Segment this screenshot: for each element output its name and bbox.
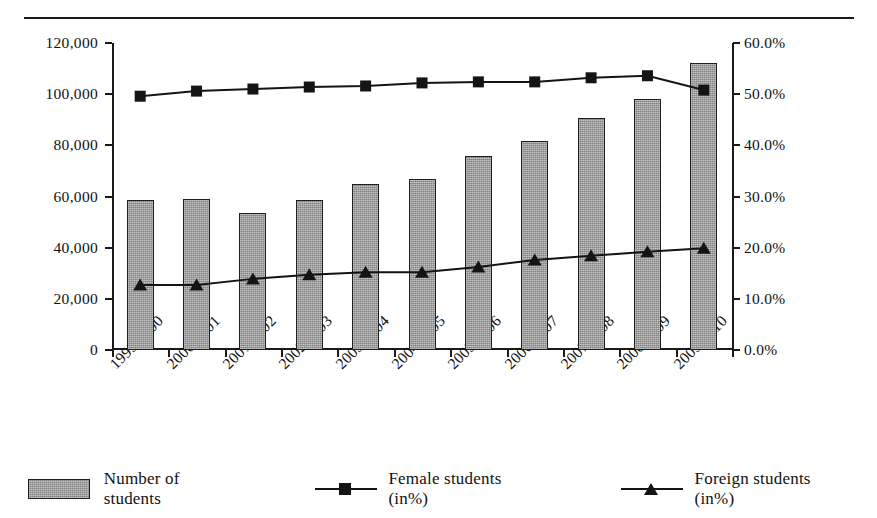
bar xyxy=(465,156,492,350)
legend-item-number-of-students: Number of students xyxy=(28,469,241,509)
legend-label-female-students: Female students (in%) xyxy=(388,469,544,509)
left-axis-tick xyxy=(105,144,112,146)
left-axis-tick xyxy=(105,298,112,300)
right-axis-tick xyxy=(733,93,740,95)
legend-item-foreign-students: Foreign students (in%) xyxy=(621,469,854,509)
right-axis-tick xyxy=(733,144,740,146)
legend-item-female-students: Female students (in%) xyxy=(315,469,545,509)
line-square-marker-icon xyxy=(315,482,377,496)
right-axis-tick-label: 10.0% xyxy=(744,290,844,308)
right-axis-line xyxy=(732,43,734,352)
left-axis-tick-label: 100,000 xyxy=(0,85,98,103)
left-axis-tick xyxy=(105,196,112,198)
top-divider-rule xyxy=(24,17,854,19)
chart-legend: Number of students Female students (in%)… xyxy=(24,474,854,504)
left-axis-tick xyxy=(105,93,112,95)
left-axis-tick-label: 20,000 xyxy=(0,290,98,308)
right-axis-tick xyxy=(733,298,740,300)
left-axis-tick-label: 120,000 xyxy=(0,34,98,52)
left-axis-tick-label: 60,000 xyxy=(0,188,98,206)
right-axis-tick xyxy=(733,196,740,198)
right-axis-tick xyxy=(733,42,740,44)
bar xyxy=(409,179,436,350)
right-axis-tick-label: 40.0% xyxy=(744,136,844,154)
bar xyxy=(127,200,154,350)
bar xyxy=(634,99,661,350)
bar xyxy=(521,141,548,350)
bar xyxy=(578,118,605,350)
line-triangle-marker-icon xyxy=(621,482,683,496)
left-axis-tick-label: 40,000 xyxy=(0,239,98,257)
left-axis-tick xyxy=(105,42,112,44)
bar-swatch-icon xyxy=(28,479,90,499)
left-axis-tick xyxy=(105,349,112,351)
bar xyxy=(183,199,210,350)
right-axis-tick xyxy=(733,349,740,351)
right-axis-tick-label: 60.0% xyxy=(744,34,844,52)
bar xyxy=(690,63,717,350)
bar xyxy=(239,213,266,350)
left-axis-tick-label: 80,000 xyxy=(0,136,98,154)
right-axis-tick-label: 30.0% xyxy=(744,188,844,206)
right-axis-tick-label: 0.0% xyxy=(744,341,844,359)
right-axis-tick-label: 20.0% xyxy=(744,239,844,257)
legend-label-number-of-students: Number of students xyxy=(104,469,241,509)
left-axis-tick-label: 0 xyxy=(0,341,98,359)
right-axis-tick-label: 50.0% xyxy=(744,85,844,103)
left-axis-tick xyxy=(105,247,112,249)
right-axis-tick xyxy=(733,247,740,249)
x-axis-tick xyxy=(732,350,734,357)
chart-figure: 020,00040,00060,00080,000100,000120,000 … xyxy=(0,0,877,518)
bar xyxy=(352,184,379,350)
bar xyxy=(296,200,323,350)
legend-label-foreign-students: Foreign students (in%) xyxy=(695,469,854,509)
